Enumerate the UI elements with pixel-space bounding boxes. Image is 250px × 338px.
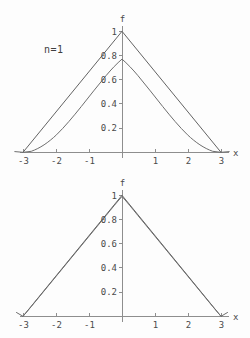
x-tick-label: 2	[186, 320, 191, 330]
y-axis-label-n5: f	[120, 178, 125, 188]
fourier-series-figure: -3 -2 -1 1 2 3 0.2 0.4 0.6 0.8 1 x f n=1	[0, 0, 250, 338]
x-tick-labels-n5: -3 -2 -1 1 2 3	[18, 320, 224, 330]
y-tick-label: 0.6	[101, 239, 117, 249]
x-tick-label: -3	[18, 320, 29, 330]
x-tick-label: 3	[219, 156, 224, 166]
y-tick-label: 1	[112, 27, 117, 37]
y-tick-label: 1	[112, 191, 117, 201]
panel-annotation-n1: n=1	[44, 44, 64, 55]
chart-panel-n5: -3 -2 -1 1 2 3 0.2 0.4 0.6 0.8 1 x f n=5	[0, 169, 250, 338]
y-tick-labels-n5: 0.2 0.4 0.6 0.8 1	[101, 191, 117, 298]
x-tick-label: 1	[153, 156, 158, 166]
x-tick-label: 2	[186, 156, 191, 166]
y-tick-label: 0.2	[101, 287, 117, 297]
y-tick-label: 0.4	[101, 99, 117, 109]
y-tick-label: 0.8	[101, 215, 117, 225]
y-tick-labels-n1: 0.2 0.4 0.6 0.8 1	[101, 27, 117, 134]
y-axis-label-n1: f	[120, 14, 125, 24]
x-axis-label-n1: x	[233, 148, 239, 158]
plot-area-n1: -3 -2 -1 1 2 3 0.2 0.4 0.6 0.8 1 x f	[0, 0, 250, 169]
x-axis-label-n5: x	[233, 312, 239, 322]
x-tick-label: -1	[84, 156, 95, 166]
x-tick-label: 1	[153, 320, 158, 330]
y-tick-label: 0.2	[101, 123, 117, 133]
x-tick-label: -1	[84, 320, 95, 330]
x-tick-label: -2	[51, 320, 62, 330]
y-tick-label: 0.8	[101, 51, 117, 61]
x-tick-labels-n1: -3 -2 -1 1 2 3	[18, 156, 224, 166]
x-tick-label: -2	[51, 156, 62, 166]
x-tick-label: -3	[18, 156, 29, 166]
chart-panel-n1: -3 -2 -1 1 2 3 0.2 0.4 0.6 0.8 1 x f n=1	[0, 0, 250, 169]
plot-area-n5: -3 -2 -1 1 2 3 0.2 0.4 0.6 0.8 1 x f	[0, 169, 250, 338]
y-tick-label: 0.4	[101, 263, 117, 273]
y-tick-label: 0.6	[101, 75, 117, 85]
x-tick-label: 3	[219, 320, 224, 330]
